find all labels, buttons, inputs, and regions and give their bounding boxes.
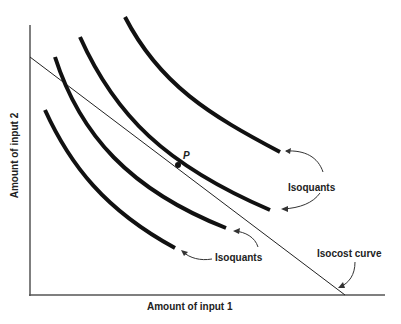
arrowhead [285, 148, 291, 154]
arrow-isoquants-upper-1 [286, 151, 323, 172]
point-p-label: P [183, 150, 190, 161]
isoquant-4 [125, 17, 280, 152]
arrowhead [281, 206, 288, 212]
isocost-curve-label: Isocost curve [317, 248, 381, 259]
isoquants-label-lower: Isoquants [215, 252, 262, 263]
arrow-isoquants-lower-2 [183, 252, 212, 260]
isoquant-diagram [0, 0, 401, 324]
arrowhead [233, 228, 240, 234]
isoquant-2 [55, 57, 226, 228]
isoquant-3 [80, 37, 270, 210]
x-axis-label: Amount of input 1 [147, 301, 233, 312]
isoquant-1 [45, 110, 175, 248]
tangent-point-p [175, 162, 181, 168]
y-axis-label: Amount of input 2 [9, 106, 20, 206]
arrow-isoquants-upper-2 [283, 193, 320, 209]
arrowhead [338, 282, 345, 288]
isoquants-label-upper: Isoquants [288, 182, 335, 193]
